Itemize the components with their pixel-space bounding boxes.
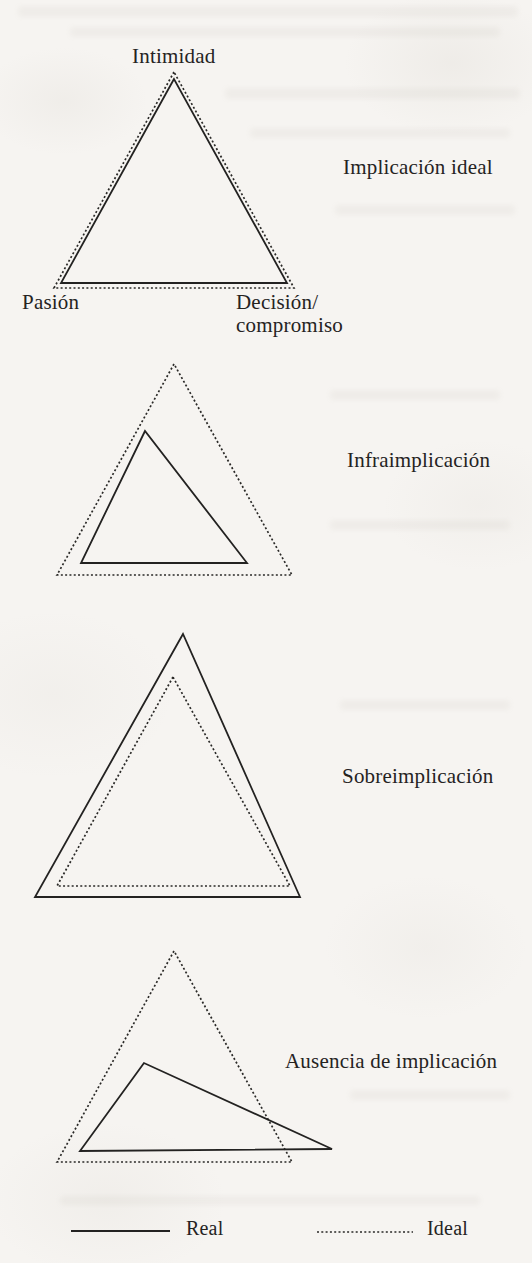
vertex-label-decision-line1: Decisión/ — [236, 291, 343, 314]
triangle-diagram-canvas — [0, 0, 532, 1263]
ideal-triangle-implicacion-ideal — [54, 72, 294, 288]
section-caption-infraimplicacion: Infraimplicación — [347, 449, 490, 472]
vertex-label-decision-compromiso: Decisión/ compromiso — [236, 291, 343, 337]
ideal-triangle-sobreimplicacion — [57, 677, 290, 886]
legend-label-real: Real — [186, 1217, 223, 1240]
section-caption-ausencia-de-implicacion: Ausencia de implicación — [285, 1050, 497, 1073]
legend-label-ideal: Ideal — [427, 1217, 468, 1240]
real-triangle-infraimplicacion — [81, 431, 247, 563]
section-caption-sobreimplicacion: Sobreimplicación — [342, 765, 493, 788]
real-triangle-ausencia — [80, 1063, 332, 1151]
vertex-label-pasion: Pasión — [22, 291, 79, 314]
vertex-label-intimidad: Intimidad — [132, 45, 215, 68]
vertex-label-decision-line2: compromiso — [236, 314, 343, 337]
ideal-triangle-ausencia — [57, 951, 292, 1162]
real-triangle-sobreimplicacion — [35, 634, 300, 897]
real-triangle-implicacion-ideal — [61, 79, 287, 283]
section-caption-implicacion-ideal: Implicación ideal — [343, 156, 493, 179]
scanned-book-page: Intimidad Pasión Decisión/ compromiso Im… — [0, 0, 532, 1263]
